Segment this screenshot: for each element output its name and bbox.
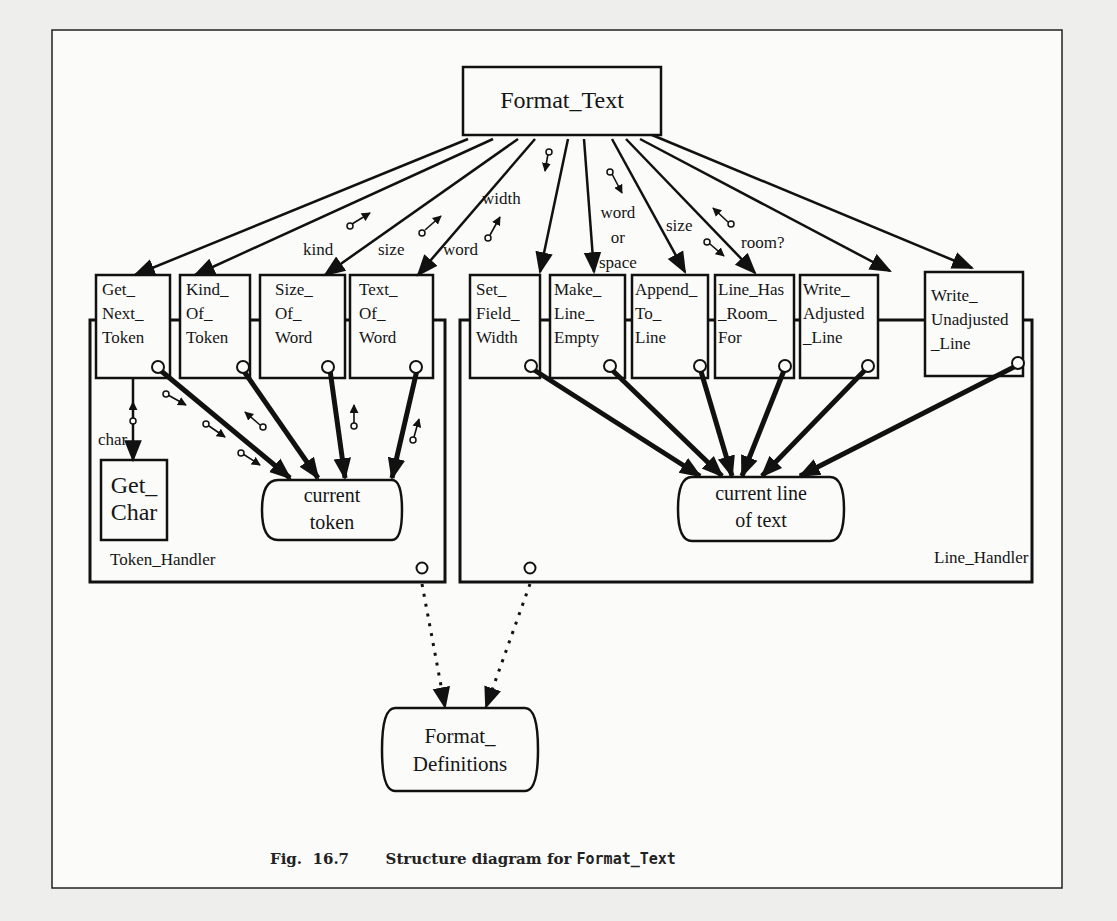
- module-size-of-word: Size_ Of_ Word: [275, 278, 313, 350]
- format-text-label: Format_Text: [463, 86, 661, 114]
- module-append-to-line: Append_ To_ Line: [635, 278, 697, 350]
- module-get-char: Get_ Char: [101, 472, 167, 526]
- module-write-adjusted-line: Write_ Adjusted _Line: [803, 278, 864, 350]
- flow-label-kind: kind: [303, 240, 333, 260]
- caption-code: Format_Text: [577, 850, 676, 868]
- module-set-field-width: Set_ Field_ Width: [476, 278, 519, 350]
- flow-label-room: room?: [741, 233, 784, 253]
- token-handler-label: Token_Handler: [110, 550, 216, 570]
- flow-label-size-right: size: [666, 216, 692, 236]
- flow-label-word: word: [443, 240, 478, 260]
- format-definitions-label: Format_ Definitions: [382, 722, 538, 778]
- flow-label-word-or-space: word or space: [599, 200, 637, 275]
- flow-label-width: width: [482, 189, 521, 209]
- module-get-next-token: Get_ Next_ Token: [102, 278, 144, 350]
- current-line-label: current line of text: [678, 480, 844, 534]
- current-token-label: current token: [262, 482, 402, 536]
- module-write-unadjusted-line: Write_ Unadjusted _Line: [931, 284, 1008, 356]
- module-kind-of-token: Kind_ Of_ Token: [186, 278, 229, 350]
- flow-label-size-left: size: [378, 240, 404, 260]
- structure-diagram: Format_Text Get_ Next_ Token Kind_ Of_ T…: [0, 0, 1117, 921]
- module-make-line-empty: Make_ Line_ Empty: [554, 278, 601, 350]
- flow-label-char: char: [98, 430, 127, 450]
- caption-text: Structure diagram for: [386, 850, 577, 868]
- figure-caption: Fig. 16.7 Structure diagram for Format_T…: [270, 850, 676, 868]
- module-text-of-word: Text_ Of_ Word: [359, 278, 397, 350]
- module-line-has-room-for: Line_Has _Room_ For: [718, 278, 784, 350]
- caption-fig-number: Fig. 16.7: [270, 850, 349, 868]
- line-handler-label: Line_Handler: [934, 548, 1028, 568]
- figure-frame: [52, 30, 1062, 888]
